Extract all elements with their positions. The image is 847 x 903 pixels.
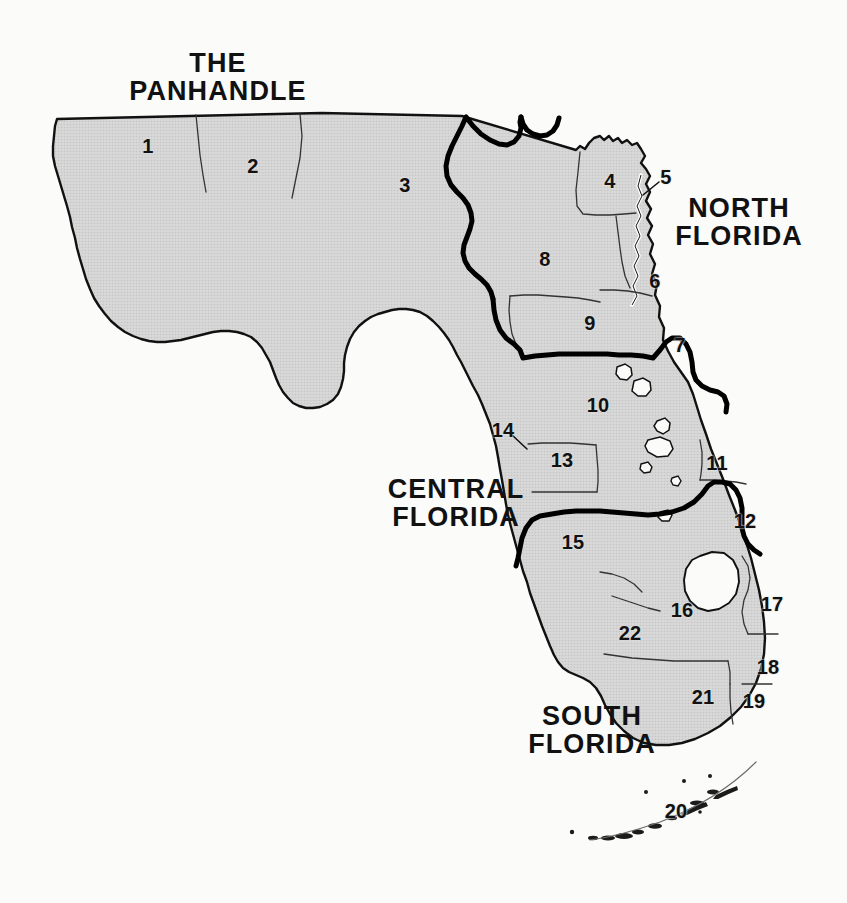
region-number-11[interactable]: 11 — [706, 452, 728, 475]
area-label-panhandle: THEPANHANDLE — [129, 49, 306, 105]
area-label-line: SOUTH — [528, 702, 656, 730]
region-number-1[interactable]: 1 — [142, 135, 153, 158]
area-label-line: PANHANDLE — [129, 77, 306, 105]
area-label-north-florida: NORTHFLORIDA — [675, 194, 803, 250]
region-number-2[interactable]: 2 — [247, 155, 258, 178]
region-number-22[interactable]: 22 — [619, 622, 642, 645]
region-number-20[interactable]: 20 — [665, 800, 688, 823]
area-label-line: FLORIDA — [675, 222, 803, 250]
region-number-16[interactable]: 16 — [671, 599, 694, 622]
florida-regions-map: THEPANHANDLENORTHFLORIDACENTRALFLORIDASO… — [0, 0, 847, 903]
region-number-13[interactable]: 13 — [551, 449, 574, 472]
region-number-8[interactable]: 8 — [539, 248, 550, 271]
area-label-line: FLORIDA — [528, 730, 656, 758]
region-number-12[interactable]: 12 — [734, 510, 757, 533]
region-number-21[interactable]: 21 — [692, 686, 715, 709]
region-number-7[interactable]: 7 — [674, 334, 685, 357]
region-number-3[interactable]: 3 — [399, 174, 410, 197]
region-number-10[interactable]: 10 — [587, 394, 610, 417]
region-number-14[interactable]: 14 — [492, 419, 515, 442]
map-labels-layer: THEPANHANDLENORTHFLORIDACENTRALFLORIDASO… — [0, 0, 847, 903]
area-label-line: CENTRAL — [388, 475, 525, 503]
region-number-4[interactable]: 4 — [604, 170, 615, 193]
area-label-line: NORTH — [675, 194, 803, 222]
region-number-17[interactable]: 17 — [761, 593, 784, 616]
region-number-19[interactable]: 19 — [743, 690, 766, 713]
area-label-line: FLORIDA — [388, 503, 525, 531]
region-number-18[interactable]: 18 — [757, 656, 780, 679]
region-number-6[interactable]: 6 — [649, 270, 660, 293]
area-label-line: THE — [129, 49, 306, 77]
area-label-central-florida: CENTRALFLORIDA — [388, 475, 525, 531]
area-label-south-florida: SOUTHFLORIDA — [528, 702, 656, 758]
region-number-5[interactable]: 5 — [660, 166, 671, 189]
region-number-9[interactable]: 9 — [584, 312, 595, 335]
region-number-15[interactable]: 15 — [562, 531, 585, 554]
